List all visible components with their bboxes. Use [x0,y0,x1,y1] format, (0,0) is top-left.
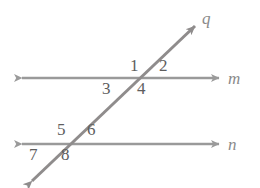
angle-label-4: 4 [137,80,146,97]
line-q-transversal [32,26,195,181]
geometry-canvas [0,0,260,188]
angle-label-1: 1 [130,57,139,74]
line-label-m: m [228,70,240,87]
angle-label-3: 3 [102,80,111,97]
angle-label-2: 2 [159,57,168,74]
angle-label-5: 5 [57,121,66,138]
geometry-diagram: m n q 1 2 3 4 5 6 7 8 [0,0,260,188]
line-label-n: n [228,136,237,153]
angle-label-6: 6 [87,121,96,138]
line-label-q: q [202,10,211,27]
angle-label-7: 7 [29,146,38,163]
angle-label-8: 8 [61,146,70,163]
